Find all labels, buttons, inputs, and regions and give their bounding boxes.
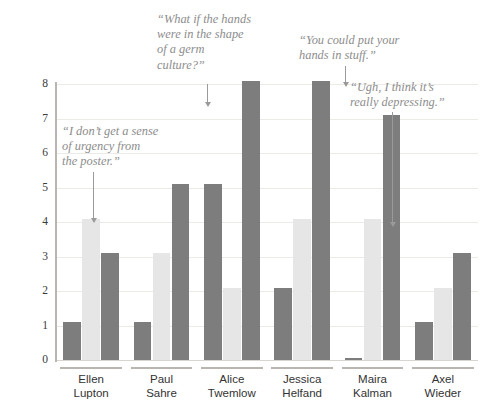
bar (63, 322, 81, 360)
bar (434, 288, 452, 360)
y-axis-tick-0: 0 (8, 353, 48, 365)
bar (204, 184, 222, 360)
category-rule (412, 367, 474, 369)
bar (223, 288, 241, 360)
bar (312, 81, 330, 360)
grouped-bar-chart: 012345678 EllenLuptonPaulSahreAliceTweml… (0, 0, 495, 412)
category-label-line: Wieder (398, 387, 488, 401)
annotation-depressing-arrowhead (390, 222, 396, 227)
y-axis-tick-8: 8 (8, 77, 48, 89)
annotation-urgency: “I don’t get a sense of urgency from the… (62, 124, 192, 170)
bar (153, 253, 171, 360)
bar (274, 288, 292, 360)
bar (242, 81, 260, 360)
bar (453, 253, 471, 360)
y-axis-tick-2: 2 (8, 284, 48, 296)
annotation-germ-culture-leader-line (207, 84, 208, 102)
bar (134, 322, 152, 360)
category-rule (60, 367, 122, 369)
category-rule (271, 367, 333, 369)
annotation-hands-in-stuff: “You could put your hands in stuff.” (299, 33, 417, 63)
category-label-line: Axel (398, 373, 488, 387)
bar (101, 253, 119, 360)
bar (293, 219, 311, 360)
bar (82, 219, 100, 360)
category-rule (201, 367, 263, 369)
y-axis-tick-3: 3 (8, 250, 48, 262)
annotation-depressing: “Ugh, I think it’s really depressing.” (350, 80, 478, 110)
category-rule (342, 367, 404, 369)
bar (345, 358, 363, 360)
annotation-hands-in-stuff-leader-line (345, 66, 346, 82)
bar (172, 184, 190, 360)
gridline-0 (56, 360, 478, 361)
y-axis-tick-6: 6 (8, 146, 48, 158)
annotation-urgency-arrowhead (91, 218, 97, 223)
annotation-hands-in-stuff-arrowhead (343, 82, 349, 87)
y-axis-tick-7: 7 (8, 112, 48, 124)
annotation-depressing-leader-line (392, 112, 393, 222)
annotation-urgency-leader-line (93, 172, 94, 218)
annotation-germ-culture-arrowhead (205, 102, 211, 107)
y-axis-tick-5: 5 (8, 181, 48, 193)
annotation-germ-culture: “What if the hands were in the shape of … (157, 12, 265, 73)
category-label: AxelWieder (398, 373, 488, 400)
y-axis-tick-4: 4 (8, 215, 48, 227)
bar (415, 322, 433, 360)
y-axis-tick-1: 1 (8, 319, 48, 331)
bar (364, 219, 382, 360)
category-rule (131, 367, 193, 369)
